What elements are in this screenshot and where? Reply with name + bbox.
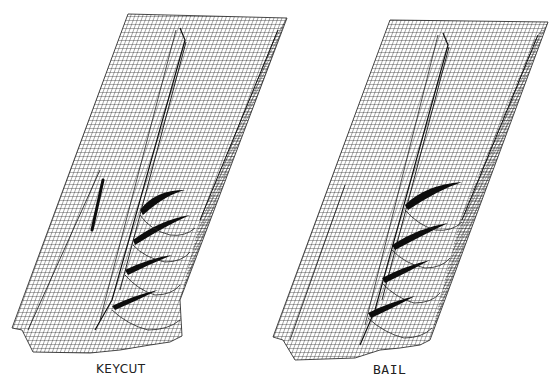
bail-wireframe-surface <box>260 0 560 388</box>
caption-bail: BAIL <box>373 362 406 377</box>
keycut-wireframe-surface <box>0 0 300 388</box>
figure: KEYCUT BAIL <box>0 0 560 388</box>
caption-keycut: KEYCUT <box>96 362 146 376</box>
